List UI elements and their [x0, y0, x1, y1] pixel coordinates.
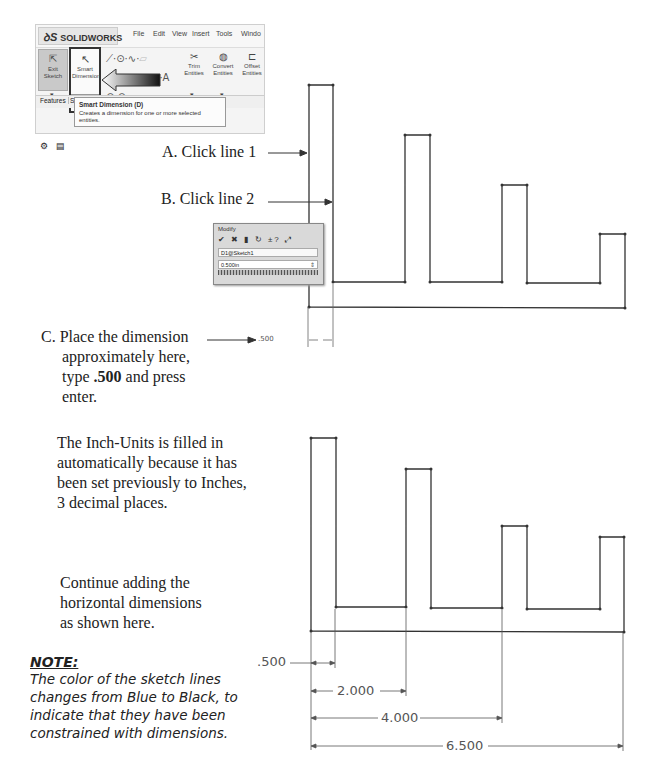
dimension-6500[interactable]: 6.500 [446, 738, 483, 753]
spin-stepper-icon[interactable]: ⇕ [310, 261, 315, 268]
modify-dialog: Modify ✔ ✖ ▮ ↻ ±? ⤢ D1@Sketch1 0.500in ⇕ [213, 223, 324, 285]
modify-dialog-title: Modify [218, 226, 236, 232]
top-sketch [309, 85, 625, 308]
dimension-2000[interactable]: 2.000 [337, 683, 374, 698]
modify-dialog-toolbar[interactable]: ✔ ✖ ▮ ↻ ±? ⤢ [218, 235, 318, 245]
dimension-lines [290, 661, 623, 748]
preview-dimension-value: .500 [258, 335, 274, 343]
bottom-sketch-points [310, 437, 626, 634]
extension-lines [311, 609, 623, 751]
sketch-drawing [0, 0, 662, 760]
dimension-4000[interactable]: 4.000 [381, 710, 418, 725]
dimension-name-field[interactable]: D1@Sketch1 [218, 248, 318, 257]
bottom-sketch [311, 438, 624, 632]
dimension-value-input[interactable]: 0.500in [218, 260, 318, 269]
thumbwheel-slider[interactable] [218, 270, 318, 275]
preview-dimension [308, 284, 333, 347]
dimension-500[interactable]: .500 [257, 654, 286, 669]
top-sketch-points [308, 84, 627, 310]
